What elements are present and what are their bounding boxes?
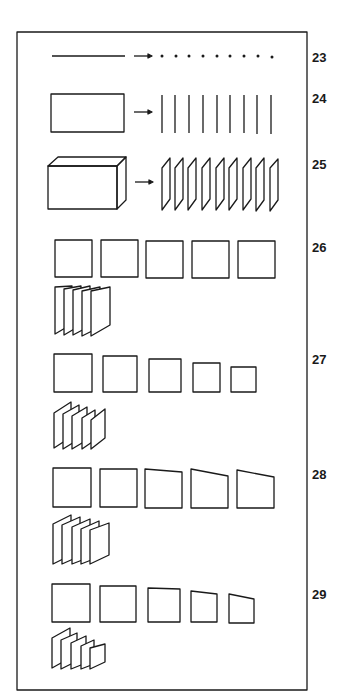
arrow-icon — [135, 180, 153, 184]
row-number-26: 26 — [312, 240, 326, 255]
slanted-planes-group — [162, 158, 278, 211]
row-number-28: 28 — [312, 467, 326, 482]
overlapping-planes-stack — [54, 402, 105, 449]
box-shape — [48, 157, 126, 209]
squares-group — [53, 468, 274, 508]
row-23-figure — [52, 54, 274, 59]
rectangle-shape — [51, 94, 124, 132]
row-number-29: 29 — [312, 587, 326, 602]
overlapping-planes-stack — [53, 515, 109, 564]
row-29-figure — [52, 584, 254, 669]
row-number-25: 25 — [312, 157, 326, 172]
row-number-23: 23 — [312, 50, 326, 65]
squares-group — [55, 240, 275, 278]
overlapping-planes-stack — [55, 286, 110, 336]
row-number-27: 27 — [312, 352, 326, 367]
vertical-lines-group — [162, 95, 271, 134]
row-26-figure — [55, 240, 275, 336]
row-28-figure — [53, 468, 274, 564]
overlapping-planes-stack — [52, 628, 105, 669]
diagram-canvas — [0, 0, 344, 695]
arrow-icon — [134, 110, 152, 114]
row-number-24: 24 — [312, 91, 326, 106]
dots-group — [161, 55, 274, 59]
squares-group — [52, 584, 254, 623]
row-27-figure — [54, 354, 256, 449]
arrow-icon — [134, 54, 152, 58]
squares-group — [54, 354, 256, 392]
row-25-figure — [48, 157, 278, 211]
row-24-figure — [51, 94, 271, 134]
